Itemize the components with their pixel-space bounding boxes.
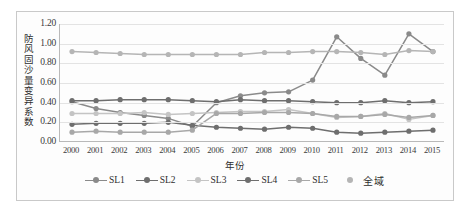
data-point bbox=[142, 52, 147, 57]
data-point bbox=[118, 97, 123, 102]
data-point bbox=[118, 111, 123, 116]
y-axis-tick-label: 0.40 bbox=[26, 98, 56, 107]
data-point bbox=[358, 50, 363, 55]
plot-area bbox=[59, 24, 444, 142]
legend-swatch-icon bbox=[237, 176, 259, 185]
data-point bbox=[262, 50, 267, 55]
data-point bbox=[262, 110, 267, 115]
data-point bbox=[286, 110, 291, 115]
data-point bbox=[310, 126, 315, 131]
data-point bbox=[310, 49, 315, 54]
gridline bbox=[60, 103, 444, 104]
x-axis-ticks: 2000200120022003200420052006200720082009… bbox=[59, 145, 444, 157]
series-SL2 bbox=[69, 97, 435, 105]
gridline bbox=[60, 83, 444, 84]
legend-swatch-icon bbox=[288, 176, 310, 185]
data-point bbox=[382, 112, 387, 117]
data-point bbox=[93, 129, 98, 134]
data-point bbox=[214, 52, 219, 57]
series-全域 bbox=[69, 48, 435, 57]
legend-marker bbox=[296, 177, 302, 183]
data-point bbox=[382, 52, 387, 57]
legend-label: SL2 bbox=[160, 175, 176, 185]
data-point bbox=[262, 90, 267, 95]
data-point bbox=[166, 97, 171, 102]
legend-label: SL5 bbox=[312, 175, 328, 185]
data-point bbox=[238, 52, 243, 57]
data-point bbox=[142, 110, 147, 115]
legend-item-SL2[interactable]: SL2 bbox=[136, 175, 176, 185]
data-point bbox=[238, 111, 243, 116]
data-point bbox=[93, 50, 98, 55]
data-point bbox=[69, 49, 74, 54]
data-point bbox=[430, 49, 435, 54]
data-point bbox=[334, 34, 339, 39]
data-point bbox=[238, 126, 243, 131]
gridline bbox=[60, 24, 444, 25]
y-axis-tick-label: 0.60 bbox=[26, 78, 56, 87]
legend-swatch-icon bbox=[187, 176, 209, 185]
legend-marker bbox=[195, 177, 201, 183]
gridline bbox=[60, 122, 444, 123]
legend-marker bbox=[93, 177, 99, 183]
data-point bbox=[358, 56, 363, 61]
gridline bbox=[60, 63, 444, 64]
legend-item-SL4[interactable]: SL4 bbox=[237, 175, 277, 185]
legend-swatch-icon bbox=[136, 176, 158, 185]
x-axis-title: 年份 bbox=[0, 158, 470, 172]
legend-marker bbox=[347, 177, 353, 183]
data-point bbox=[190, 128, 195, 133]
data-point bbox=[286, 89, 291, 94]
data-point bbox=[93, 106, 98, 111]
data-point bbox=[310, 111, 315, 116]
gridline bbox=[60, 44, 444, 45]
y-axis-tick-label: 1.00 bbox=[26, 39, 56, 48]
legend-item-SL1[interactable]: SL1 bbox=[85, 175, 125, 185]
data-point bbox=[118, 51, 123, 56]
legend-item-SL3[interactable]: SL3 bbox=[187, 175, 227, 185]
data-point bbox=[262, 127, 267, 132]
data-point bbox=[382, 130, 387, 135]
legend-label: 全域 bbox=[363, 173, 385, 188]
data-point bbox=[358, 114, 363, 119]
legend-label: SL1 bbox=[109, 175, 125, 185]
legend-item-SL5[interactable]: SL5 bbox=[288, 175, 328, 185]
data-point bbox=[406, 48, 411, 53]
data-point bbox=[142, 130, 147, 135]
data-point bbox=[93, 111, 98, 116]
legend-swatch-icon bbox=[339, 176, 361, 185]
data-point bbox=[190, 123, 195, 128]
data-point bbox=[69, 130, 74, 135]
series-line bbox=[72, 51, 433, 55]
y-axis-tick-label: 0.00 bbox=[26, 137, 56, 146]
data-point bbox=[334, 114, 339, 119]
legend-item-全域[interactable]: 全域 bbox=[339, 173, 385, 188]
data-point bbox=[190, 111, 195, 116]
data-point bbox=[166, 112, 171, 117]
data-point bbox=[118, 130, 123, 135]
data-point bbox=[286, 50, 291, 55]
data-point bbox=[190, 52, 195, 57]
data-point bbox=[406, 129, 411, 134]
data-point bbox=[166, 130, 171, 135]
data-point bbox=[358, 131, 363, 136]
data-point bbox=[69, 111, 74, 116]
data-point bbox=[166, 52, 171, 57]
y-axis-ticks: 0.000.200.400.600.801.001.20 bbox=[22, 24, 56, 142]
legend-swatch-icon bbox=[85, 176, 107, 185]
data-point bbox=[214, 125, 219, 130]
data-point bbox=[430, 128, 435, 133]
data-point bbox=[238, 97, 243, 102]
x-axis-tick-label: 2015 bbox=[417, 145, 447, 155]
data-point bbox=[430, 113, 435, 118]
y-axis-tick-label: 1.20 bbox=[26, 19, 56, 28]
data-point bbox=[214, 111, 219, 116]
data-point bbox=[286, 125, 291, 130]
y-axis-tick-label: 0.20 bbox=[26, 117, 56, 126]
data-point bbox=[334, 49, 339, 54]
data-point bbox=[406, 31, 411, 36]
chart-figure: 防风固沙量变异系数 0.000.200.400.600.801.001.20 2… bbox=[0, 0, 470, 215]
legend-marker bbox=[245, 177, 251, 183]
data-point bbox=[142, 97, 147, 102]
data-point bbox=[406, 115, 411, 120]
